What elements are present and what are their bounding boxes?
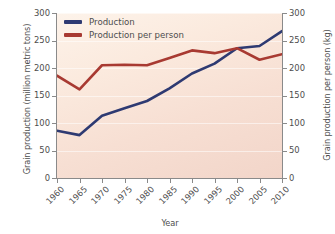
x-tick-label-2005: 2005 bbox=[245, 184, 269, 208]
y-tick-right-50 bbox=[283, 151, 287, 152]
y-axis-right-title: Grain production per person (kg) bbox=[322, 10, 332, 180]
x-tick-label-2000: 2000 bbox=[222, 184, 246, 208]
y-tick-right-100 bbox=[283, 123, 287, 124]
x-tick-1980 bbox=[147, 179, 148, 183]
y-tick-right-150 bbox=[283, 96, 287, 97]
x-tick-1970 bbox=[102, 179, 103, 183]
y-tick-label-left-50: 50 bbox=[22, 146, 50, 154]
x-tick-2010 bbox=[282, 179, 283, 183]
legend-item-production: Production bbox=[64, 15, 184, 28]
x-tick-label-2010: 2010 bbox=[267, 184, 291, 208]
y-tick-label-right-250: 250 bbox=[289, 36, 317, 44]
legend-swatch-production bbox=[64, 20, 82, 24]
x-tick-label-1970: 1970 bbox=[87, 184, 111, 208]
y-tick-label-left-200: 200 bbox=[22, 64, 50, 72]
x-tick-label-1975: 1975 bbox=[110, 184, 134, 208]
y-tick-label-left-250: 250 bbox=[22, 36, 50, 44]
y-tick-label-right-300: 300 bbox=[289, 9, 317, 17]
y-tick-right-200 bbox=[283, 68, 287, 69]
legend-swatch-production-per-person bbox=[64, 33, 82, 37]
series-line-production bbox=[57, 31, 282, 135]
y-tick-label-left-300: 300 bbox=[22, 9, 50, 17]
y-axis-left-spine bbox=[56, 13, 57, 179]
x-tick-1985 bbox=[170, 179, 171, 183]
y-tick-left-150 bbox=[52, 96, 56, 97]
y-tick-label-right-200: 200 bbox=[289, 64, 317, 72]
y-tick-label-left-0: 0 bbox=[22, 174, 50, 182]
y-tick-label-right-0: 0 bbox=[289, 174, 317, 182]
x-tick-label-1990: 1990 bbox=[177, 184, 201, 208]
x-tick-1990 bbox=[192, 179, 193, 183]
x-tick-1965 bbox=[80, 179, 81, 183]
y-tick-left-250 bbox=[52, 41, 56, 42]
chart-legend: Production Production per person bbox=[64, 15, 184, 41]
series-line-production-per-person bbox=[57, 48, 282, 89]
x-tick-1975 bbox=[125, 179, 126, 183]
y-tick-label-right-50: 50 bbox=[289, 146, 317, 154]
y-tick-right-0 bbox=[283, 178, 287, 179]
x-tick-label-1995: 1995 bbox=[200, 184, 224, 208]
x-tick-label-1985: 1985 bbox=[155, 184, 179, 208]
x-tick-label-1980: 1980 bbox=[132, 184, 156, 208]
y-tick-label-right-150: 150 bbox=[289, 91, 317, 99]
y-tick-left-50 bbox=[52, 151, 56, 152]
y-tick-left-200 bbox=[52, 68, 56, 69]
legend-item-production-per-person: Production per person bbox=[64, 28, 184, 41]
x-tick-1995 bbox=[215, 179, 216, 183]
x-tick-label-1960: 1960 bbox=[42, 184, 66, 208]
y-tick-label-left-150: 150 bbox=[22, 91, 50, 99]
y-tick-label-left-100: 100 bbox=[22, 119, 50, 127]
x-tick-1960 bbox=[57, 179, 58, 183]
y-tick-left-300 bbox=[52, 13, 56, 14]
x-tick-label-1965: 1965 bbox=[65, 184, 89, 208]
y-tick-left-0 bbox=[52, 178, 56, 179]
y-tick-label-right-100: 100 bbox=[289, 119, 317, 127]
grain-production-line-chart: Grain production (million metric tons) G… bbox=[0, 0, 335, 234]
y-tick-right-300 bbox=[283, 13, 287, 14]
x-tick-2005 bbox=[260, 179, 261, 183]
x-tick-2000 bbox=[237, 179, 238, 183]
y-tick-left-100 bbox=[52, 123, 56, 124]
legend-label-production-per-person: Production per person bbox=[89, 30, 184, 40]
legend-label-production: Production bbox=[89, 17, 135, 27]
x-axis-title: Year bbox=[57, 218, 283, 228]
y-tick-right-250 bbox=[283, 41, 287, 42]
